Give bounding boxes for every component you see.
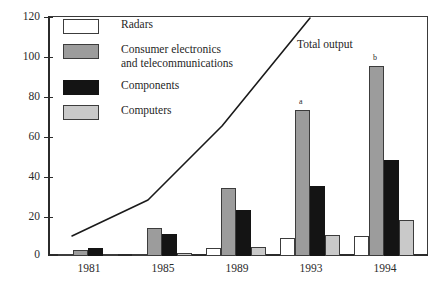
bar-1994-computers[interactable] [399,220,414,256]
y-label-100: 100 [0,51,40,63]
y-label-40: 40 [0,171,40,183]
x-label-1989: 1989 [206,262,268,274]
bar-1989-consumer[interactable] [221,188,236,256]
y-label-120: 120 [0,11,40,23]
y-label-20: 20 [0,211,40,223]
legend-swatch-components [63,80,99,95]
legend-label-computers: Computers [121,104,171,118]
bar-1994-radars[interactable] [354,236,369,256]
annotation-marker-b: b [373,54,377,62]
bar-1985-computers[interactable] [177,253,192,256]
bar-1994-consumer[interactable] [369,66,384,256]
legend-item-components[interactable]: Components [63,79,313,95]
legend-item-consumer-electronics[interactable]: Consumer electronics and telecommunicati… [63,43,313,70]
x-label-1985: 1985 [132,262,194,274]
y-label-0: 0 [0,249,40,261]
bar-1981-components[interactable] [88,248,103,256]
chart-legend: Radars Consumer electronics and telecomm… [63,18,313,129]
x-label-1994: 1994 [354,262,416,274]
bar-1989-computers[interactable] [251,247,266,256]
x-label-1993: 1993 [280,262,342,274]
y-label-80: 80 [0,91,40,103]
x-label-1981: 1981 [58,262,120,274]
legend-swatch-computers [63,105,99,120]
bar-1981-consumer[interactable] [73,250,88,256]
bar-1989-radars[interactable] [206,248,221,256]
bar-1985-components[interactable] [162,234,177,256]
bar-1989-components[interactable] [236,210,251,256]
bar-1994-components[interactable] [384,160,399,256]
legend-swatch-radars [63,19,99,34]
bar-1993-radars[interactable] [280,238,295,256]
chart-figure: 120 100 80 60 40 20 0 [0,0,434,286]
bar-1985-consumer[interactable] [147,228,162,256]
legend-item-computers[interactable]: Computers [63,104,313,120]
legend-label-consumer-electronics: Consumer electronics and telecommunicati… [121,43,233,70]
legend-label-components: Components [121,79,179,93]
bar-1993-consumer[interactable] [295,110,310,256]
bar-group-1994: b [354,16,416,256]
legend-item-radars[interactable]: Radars [63,18,313,34]
bar-1981-computers[interactable] [103,254,118,256]
legend-swatch-consumer-electronics [63,44,99,59]
y-label-60: 60 [0,131,40,143]
bar-1993-computers[interactable] [325,235,340,256]
legend-label-radars: Radars [121,18,153,32]
bar-1981-radars[interactable] [58,254,73,256]
bar-1985-radars[interactable] [132,254,147,256]
bar-1993-components[interactable] [310,186,325,256]
